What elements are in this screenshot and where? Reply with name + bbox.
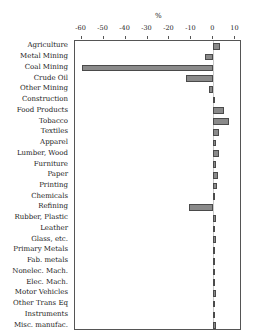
category-label: Rubber, Plastic: [14, 213, 68, 221]
x-tick-mark: [125, 36, 126, 39]
bar: [213, 269, 215, 276]
bar: [213, 43, 220, 50]
category-label: Food Products: [17, 106, 68, 114]
category-label: Fab. metals: [27, 256, 68, 264]
category-label: Apparel: [40, 138, 68, 146]
bar: [205, 54, 214, 61]
x-tick-mark: [103, 36, 104, 39]
bar: [213, 301, 215, 308]
bar: [213, 193, 215, 200]
x-tick-label: -30: [141, 24, 151, 32]
x-tick-label: 10: [230, 24, 238, 32]
bar: [213, 161, 216, 168]
bar: [213, 140, 215, 147]
x-tick-mark: [190, 36, 191, 39]
x-tick-mark: [234, 36, 235, 39]
bar: [209, 86, 213, 93]
bar-chart: % -60-50-40-30-20-10010 AgricultureMetal…: [0, 0, 273, 336]
bar: [213, 258, 215, 265]
bar: [213, 226, 215, 233]
bar: [213, 247, 215, 254]
category-label: Instruments: [25, 310, 68, 318]
category-label: Primary Metals: [13, 245, 68, 253]
category-label: Construction: [22, 95, 68, 103]
axis-title-text: %: [155, 12, 162, 20]
category-label: Lumber, Wood: [17, 149, 68, 157]
x-tick-label: 0: [210, 24, 214, 32]
bar: [213, 118, 228, 125]
category-label: Metal Mining: [20, 52, 68, 60]
x-tick-mark: [81, 36, 82, 39]
category-label: Other Mining: [20, 84, 68, 92]
category-label: Refining: [38, 202, 68, 210]
category-label: Leather: [40, 224, 68, 232]
bar: [213, 129, 218, 136]
category-label: Chemicals: [31, 192, 68, 200]
category-label: Printing: [39, 181, 68, 189]
x-tick-label: -10: [185, 24, 195, 32]
bar: [213, 215, 216, 222]
bar: [213, 97, 215, 104]
bar: [213, 183, 216, 190]
category-label: Misc. manufac.: [14, 321, 68, 329]
category-label: Other Trans Eq: [13, 299, 68, 307]
category-label: Crude Oil: [34, 74, 68, 82]
category-label: Tobacco: [39, 117, 68, 125]
x-tick-mark: [212, 36, 213, 39]
bar: [189, 204, 213, 211]
category-label: Coal Mining: [25, 63, 68, 71]
x-tick-label: -60: [75, 24, 85, 32]
bar: [213, 290, 215, 297]
x-axis-tick-labels: -60-50-40-30-20-10010: [74, 24, 241, 36]
bar: [186, 75, 213, 82]
bar: [213, 172, 217, 179]
x-tick-mark: [147, 36, 148, 39]
category-label: Glass, etc.: [31, 235, 68, 243]
bar: [213, 312, 215, 319]
category-label: Agriculture: [27, 41, 68, 49]
category-label: Furniture: [34, 160, 68, 168]
x-tick-label: -20: [163, 24, 173, 32]
category-label: Elec. Mach.: [26, 278, 68, 286]
bar: [213, 150, 218, 157]
category-label: Motor Vehicles: [15, 288, 68, 296]
category-label: Nonelec. Mach.: [12, 267, 68, 275]
bar: [82, 65, 214, 72]
axis-title: %: [0, 12, 273, 20]
x-tick-label: -40: [119, 24, 129, 32]
category-label: Paper: [47, 170, 68, 178]
bar: [213, 279, 215, 286]
category-axis-labels: AgricultureMetal MiningCoal MiningCrude …: [0, 40, 70, 330]
x-tick-mark: [168, 36, 169, 39]
plot-area: [74, 40, 241, 330]
bar: [213, 236, 215, 243]
bar: [213, 107, 224, 114]
bar: [213, 322, 216, 329]
x-tick-label: -50: [97, 24, 107, 32]
category-label: Textiles: [41, 127, 68, 135]
